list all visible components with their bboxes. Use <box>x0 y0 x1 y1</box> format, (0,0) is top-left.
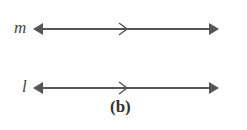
line-m <box>33 23 219 35</box>
figure-caption: (b) <box>110 97 131 117</box>
line-l <box>33 82 219 94</box>
